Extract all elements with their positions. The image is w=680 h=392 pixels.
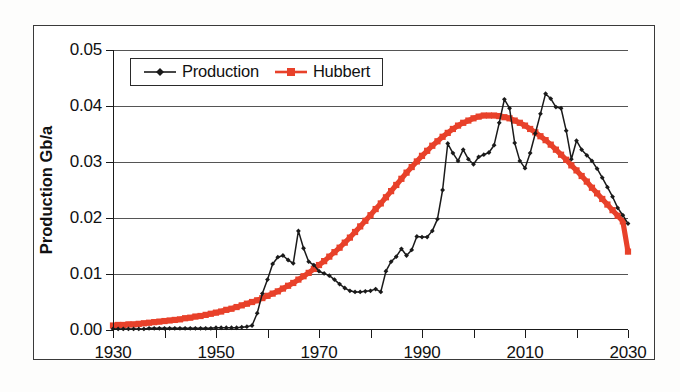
production-line-swatch-icon [143,66,177,78]
x-axis-tick [319,330,320,338]
x-axis-tick [577,330,578,338]
x-axis-tick [422,330,423,338]
y-axis-tick-label: 0.01 [70,264,102,284]
chart-figure: Production Gb/a 0.000.010.020.030.040.05… [0,0,680,392]
series-plot [113,50,628,330]
legend-label-hubbert: Hubbert [313,62,370,81]
x-axis-tick [474,330,475,338]
x-axis-tick [628,330,629,338]
y-axis-title: Production Gb/a [37,126,56,254]
y-axis-tick-label: 0.02 [70,208,102,228]
y-axis-tick-label: 0.04 [70,96,102,116]
y-axis-tick [106,274,113,275]
plot-area: 0.000.010.020.030.040.05 193019501970199… [113,50,628,330]
x-axis-tick-label: 1950 [197,343,234,363]
y-axis-tick [106,218,113,219]
y-axis-tick-label: 0.05 [70,40,102,60]
legend-entry-hubbert: Hubbert [274,62,370,81]
hubbert-line-swatch-icon [274,66,308,78]
legend-entry-production: Production [143,62,259,81]
x-axis-tick-label: 2030 [609,343,646,363]
y-axis-tick [106,106,113,107]
chart-legend: Production Hubbert [130,58,383,86]
x-axis-tick [113,330,114,338]
x-axis-tick-label: 1930 [94,343,131,363]
x-axis-tick [525,330,526,338]
series-hubbert [110,112,631,328]
x-axis-tick [216,330,217,338]
x-axis-tick-label: 1990 [403,343,440,363]
y-axis-tick [106,162,113,163]
x-axis-tick [371,330,372,338]
x-axis-tick [165,330,166,338]
legend-label-production: Production [182,62,259,81]
x-axis-tick [268,330,269,338]
x-axis-tick-label: 2010 [506,343,543,363]
x-axis-tick-label: 1970 [300,343,337,363]
y-axis-tick-label: 0.03 [70,152,102,172]
y-axis-tick [106,50,113,51]
y-axis-tick-label: 0.00 [70,320,102,340]
